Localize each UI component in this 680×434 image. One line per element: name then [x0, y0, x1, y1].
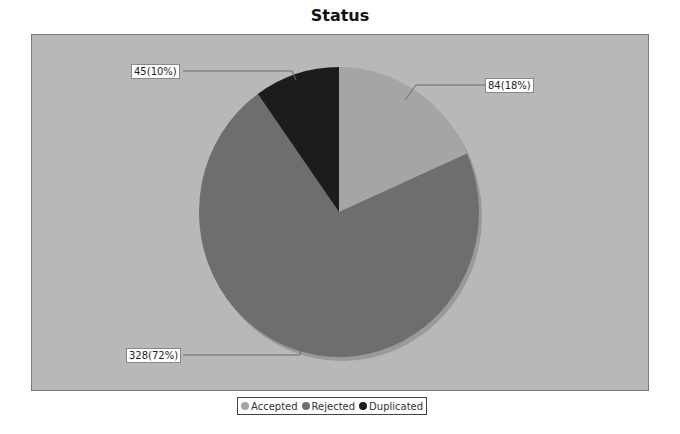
legend-item-accepted: Accepted: [241, 401, 298, 412]
slice-label-accepted: 84(18%): [485, 78, 534, 93]
circle-icon: [359, 402, 367, 410]
slice-label-rejected: 328(72%): [126, 348, 181, 363]
pie-chart: [0, 0, 680, 434]
legend-label: Accepted: [251, 401, 298, 412]
legend-item-duplicated: Duplicated: [359, 401, 423, 412]
leader-line-duplicated: [183, 71, 296, 80]
slice-label-duplicated: 45(10%): [131, 64, 180, 79]
circle-icon: [241, 402, 249, 410]
legend-item-rejected: Rejected: [302, 401, 356, 412]
legend: Accepted Rejected Duplicated: [237, 397, 427, 415]
legend-label: Duplicated: [369, 401, 423, 412]
legend-label: Rejected: [312, 401, 356, 412]
circle-icon: [302, 402, 310, 410]
